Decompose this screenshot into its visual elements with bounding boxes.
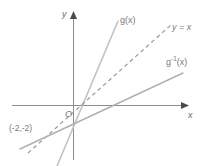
annotation-intersection-point: (-2,-2) <box>9 124 32 133</box>
y-axis <box>70 11 77 160</box>
x-axis-label: x <box>188 111 193 120</box>
x-axis-arrow-icon <box>181 102 189 109</box>
x-axis <box>12 102 189 109</box>
graph-figure: y x O g(x) y = x g-1(x) (-2,-2) <box>0 0 202 166</box>
curve-label-g-inverse: g-1(x) <box>166 58 187 67</box>
origin-label: O <box>65 110 72 119</box>
curve-g <box>57 21 118 166</box>
curve-label-identity: y = x <box>172 23 191 32</box>
curve-label-g-inverse-arg: (x) <box>177 57 188 67</box>
y-axis-arrow-icon <box>70 11 77 19</box>
curve-g-inverse <box>20 73 183 149</box>
curve-label-g: g(x) <box>120 16 136 25</box>
y-axis-label: y <box>62 10 67 19</box>
